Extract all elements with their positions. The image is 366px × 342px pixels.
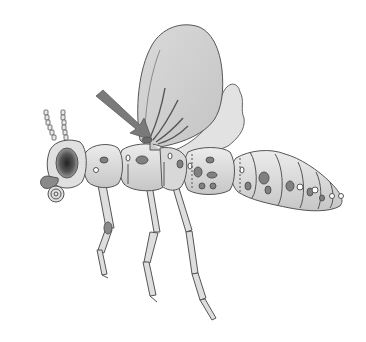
thorax — [119, 137, 187, 191]
antenna-right — [61, 110, 68, 140]
head — [41, 140, 87, 202]
antennae — [44, 110, 68, 140]
pronotum — [83, 145, 122, 188]
legs — [97, 185, 216, 320]
abdomen — [231, 151, 344, 211]
compound-eye — [56, 148, 78, 178]
propodeum — [184, 148, 235, 195]
antenna-left — [44, 110, 56, 140]
insect-illustration: Insect illustration (wasp-like) with arr… — [0, 0, 366, 342]
